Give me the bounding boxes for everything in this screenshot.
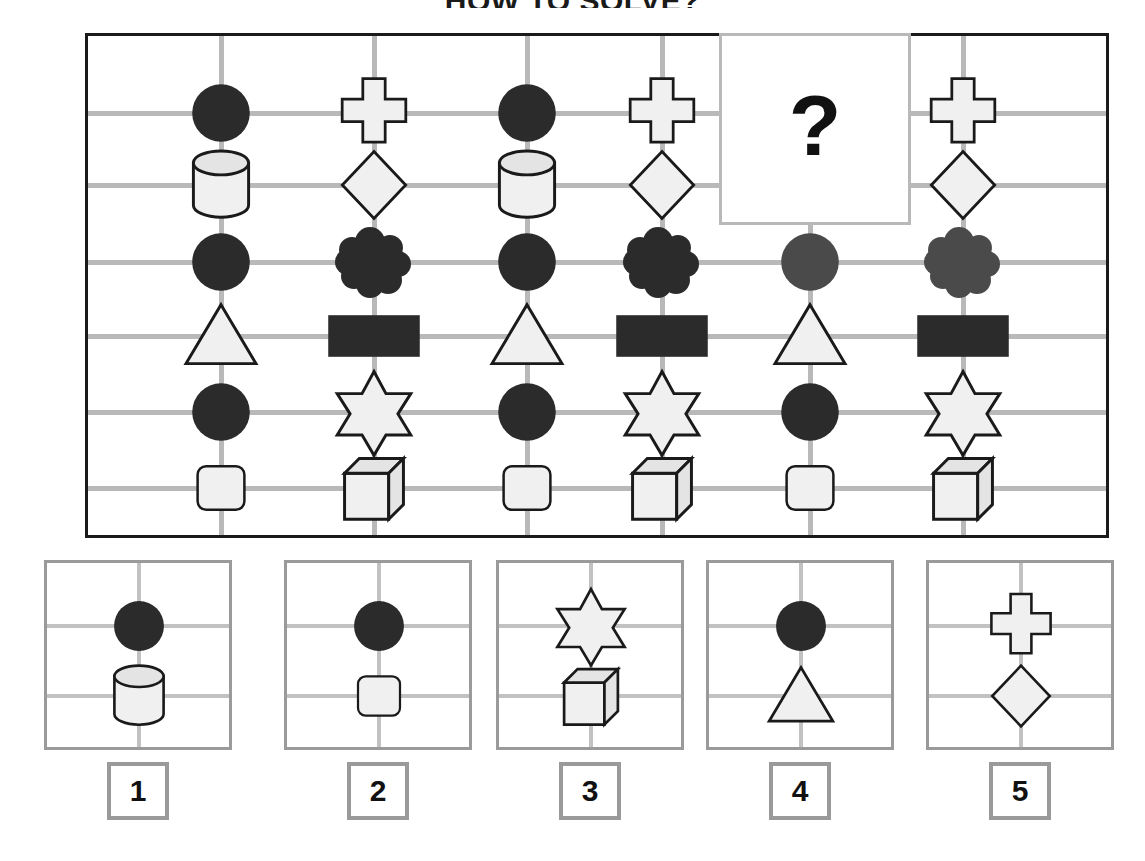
matrix-cell-5-5-circle [750, 369, 870, 455]
matrix-puzzle-frame: ? [85, 33, 1109, 538]
answer-option-1-number[interactable]: 1 [107, 762, 169, 820]
cylinder-icon [98, 655, 180, 737]
circle-icon [765, 367, 855, 457]
circle-icon [340, 587, 418, 665]
answer-option-3-bottom-cube [536, 656, 646, 736]
cross-icon [981, 586, 1061, 666]
rounded-square-icon [771, 449, 849, 527]
matrix-cell-2-6-cube [314, 445, 434, 531]
answer-option-2-top-circle [324, 586, 434, 666]
circle-icon [100, 587, 178, 665]
answer-option-5-grid[interactable] [926, 560, 1114, 750]
diamond-icon [981, 656, 1061, 736]
answer-option-5[interactable]: 5 [920, 560, 1120, 820]
answer-option-1[interactable]: 1 [38, 560, 238, 820]
cube-icon [549, 654, 633, 738]
circle-icon [482, 367, 572, 457]
answer-option-4-grid[interactable] [706, 560, 894, 750]
matrix-cell-1-6-rounded-square [161, 445, 281, 531]
answer-option-2-bottom-rounded-square [324, 656, 434, 736]
matrix-cell-3-6-rounded-square [467, 445, 587, 531]
answer-option-4-bottom-triangle [746, 656, 856, 736]
answer-option-2-grid[interactable] [284, 560, 472, 750]
matrix-cell-1-5-circle [161, 369, 281, 455]
answer-option-3-grid[interactable] [496, 560, 684, 750]
rounded-square-icon [182, 449, 260, 527]
answer-option-3[interactable]: 3 [490, 560, 690, 820]
rounded-square-icon [344, 661, 414, 731]
answer-option-5-bottom-diamond [966, 656, 1076, 736]
answer-option-5-number[interactable]: 5 [989, 762, 1051, 820]
answer-option-4-number[interactable]: 4 [769, 762, 831, 820]
matrix-cell-4-6-cube [602, 445, 722, 531]
answer-option-1-top-circle [84, 586, 194, 666]
matrix-cell-3-2-cylinder [467, 142, 587, 228]
matrix-cell-5-6-rounded-square [750, 445, 870, 531]
missing-cell-question-box[interactable]: ? [719, 33, 911, 225]
question-mark-icon: ? [789, 82, 842, 168]
answer-option-3-number[interactable]: 3 [559, 762, 621, 820]
cube-icon [917, 442, 1009, 534]
matrix-shapes-layer [88, 36, 1106, 535]
answer-option-2-number[interactable]: 2 [347, 762, 409, 820]
rounded-square-icon [488, 449, 566, 527]
cube-icon [616, 442, 708, 534]
matrix-cell-3-5-circle [467, 369, 587, 455]
circle-icon [176, 367, 266, 457]
answer-option-4[interactable]: 4 [700, 560, 900, 820]
triangle-icon [759, 654, 843, 738]
answer-option-5-top-cross [966, 586, 1076, 666]
matrix-cell-1-2-cylinder [161, 142, 281, 228]
answer-option-1-grid[interactable] [44, 560, 232, 750]
cube-icon [328, 442, 420, 534]
answer-option-2[interactable]: 2 [278, 560, 478, 820]
answer-options-row: 12345 [0, 560, 1145, 860]
matrix-cell-6-6-cube [903, 445, 1023, 531]
answer-option-1-bottom-cylinder [84, 656, 194, 736]
page-title: HOW TO SOLVE? [0, 0, 1145, 8]
